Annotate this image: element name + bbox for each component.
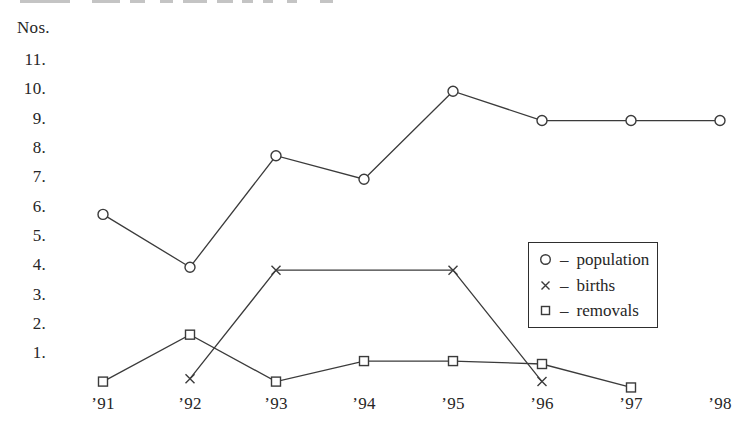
legend-item-removals: – removals	[539, 302, 657, 319]
legend-label-population: population	[577, 251, 650, 268]
x-tick-label: ’91	[91, 394, 115, 413]
y-tick-label: 5.	[33, 226, 46, 245]
y-tick-label: 1.	[33, 343, 46, 362]
population-marker	[359, 174, 369, 184]
population-marker	[185, 262, 195, 272]
chart-canvas: Nos.11.10.9.8.7.6.5.4.3.2.1.’91’92’93’94…	[0, 0, 752, 421]
population-marker	[715, 116, 725, 126]
y-tick-label: 7.	[33, 167, 46, 186]
x-tick-label: ’93	[264, 394, 288, 413]
scanned-chart-page: Nos.11.10.9.8.7.6.5.4.3.2.1.’91’92’93’94…	[0, 0, 752, 421]
removals-marker	[272, 377, 281, 386]
legend-item-population: – population	[539, 251, 657, 268]
removals-marker	[449, 357, 458, 366]
removals-marker	[186, 330, 195, 339]
x-marker-icon	[539, 279, 552, 292]
births-marker	[538, 377, 547, 386]
x-tick-label: ’95	[441, 394, 465, 413]
line-chart: Nos.11.10.9.8.7.6.5.4.3.2.1.’91’92’93’94…	[0, 0, 752, 421]
population-marker	[537, 116, 547, 126]
population-marker	[626, 116, 636, 126]
population-marker	[448, 86, 458, 96]
x-tick-label: ’97	[619, 394, 643, 413]
y-axis-title: Nos.	[17, 18, 50, 37]
circle-marker-icon	[539, 253, 552, 266]
y-tick-label: 11.	[24, 50, 46, 69]
y-tick-label: 4.	[33, 255, 46, 274]
x-tick-label: ’98	[708, 394, 732, 413]
legend-label-removals: removals	[577, 302, 639, 319]
removals-marker	[360, 357, 369, 366]
y-tick-label: 3.	[33, 285, 46, 304]
y-tick-label: 6.	[33, 197, 46, 216]
removals-marker	[538, 360, 547, 369]
population-marker	[271, 151, 281, 161]
removals-marker	[99, 377, 108, 386]
legend-separator: –	[560, 302, 569, 319]
square-marker-icon	[539, 304, 552, 317]
legend-separator: –	[560, 251, 569, 268]
legend: – population – births – removals	[528, 242, 658, 328]
removals-marker	[627, 383, 636, 392]
y-tick-label: 2.	[33, 314, 46, 333]
legend-separator: –	[560, 277, 569, 294]
x-tick-label: ’92	[178, 394, 202, 413]
legend-item-births: – births	[539, 277, 657, 294]
births-marker	[186, 374, 195, 383]
x-tick-label: ’94	[352, 394, 376, 413]
x-tick-label: ’96	[530, 394, 554, 413]
population-marker	[98, 209, 108, 219]
y-tick-label: 10.	[24, 79, 46, 98]
y-tick-label: 9.	[33, 109, 46, 128]
legend-label-births: births	[577, 277, 616, 294]
y-tick-label: 8.	[33, 138, 46, 157]
